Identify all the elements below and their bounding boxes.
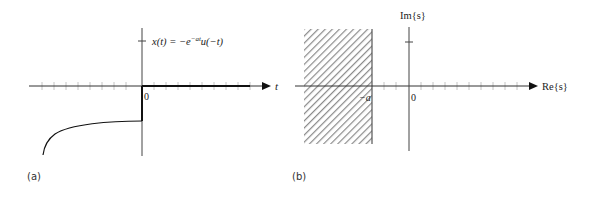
real-axis-arrow-icon [529, 82, 538, 90]
origin-label-b: 0 [411, 92, 416, 103]
real-axis-label: Re{s} [542, 81, 568, 92]
equation-label: x(t) = −e−atu(−t) [151, 35, 224, 48]
time-axis-arrow-icon [262, 82, 271, 90]
boundary-label: −a [359, 92, 371, 103]
panel-a: x(t) = −e−atu(−t) t 0 (a) [27, 28, 279, 182]
panel-b: Im{s} Re{s} 0 −a (b) [292, 10, 568, 182]
imaginary-axis-label: Im{s} [400, 10, 426, 21]
panel-a-label: (a) [27, 171, 41, 182]
time-axis-label: t [275, 80, 279, 92]
panel-b-label: (b) [292, 171, 306, 182]
signal-exponential-curve [43, 121, 142, 155]
origin-label-a: 0 [144, 91, 149, 102]
